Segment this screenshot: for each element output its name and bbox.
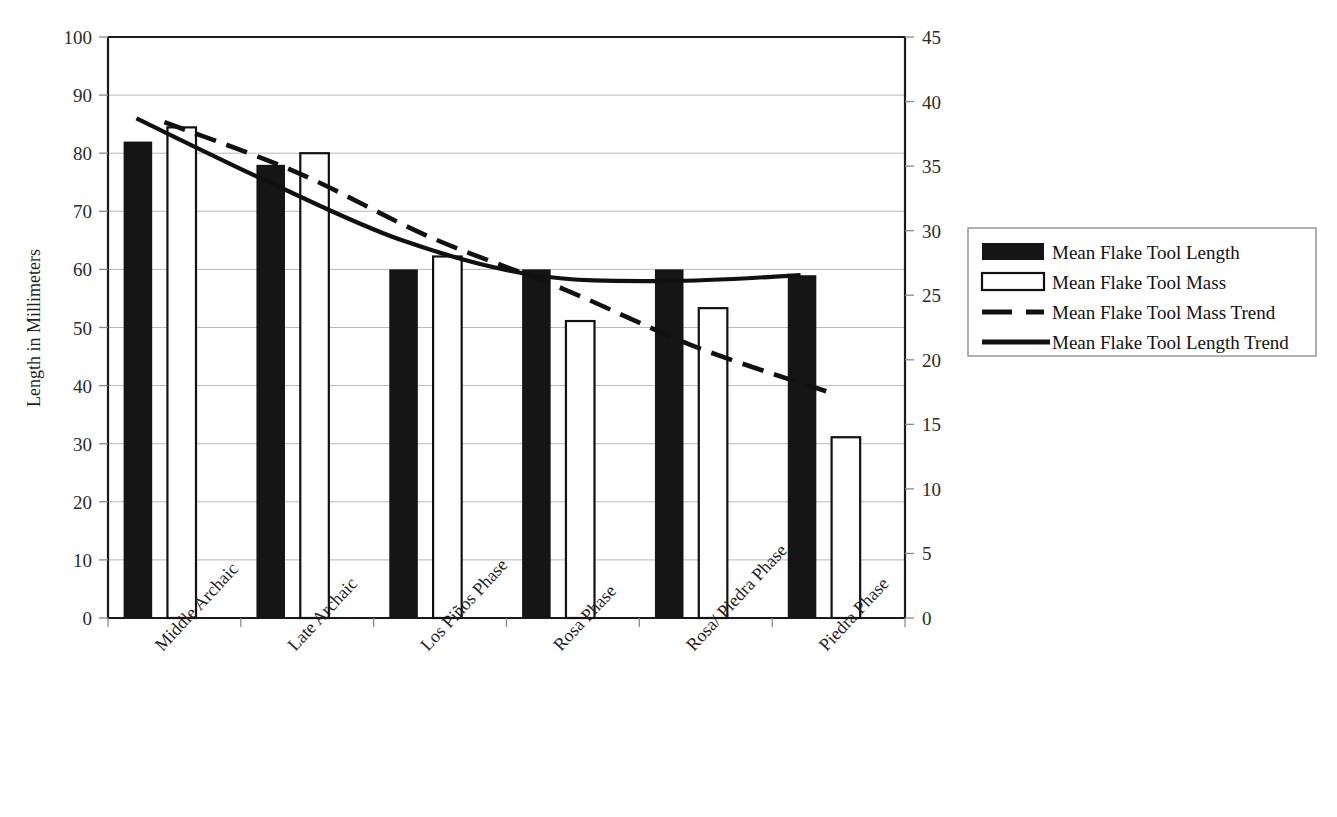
bar-mean-flake-tool-length xyxy=(124,142,153,618)
y-axis-title: Length in Millimeters xyxy=(24,249,44,407)
y-axis-tick-label: 10 xyxy=(73,550,92,571)
y-axis-tick-label: 80 xyxy=(73,143,92,164)
y2-axis-tick-label: 40 xyxy=(922,92,941,113)
y2-axis-tick-label: 20 xyxy=(922,350,941,371)
legend-marker-open-rect xyxy=(982,273,1044,290)
legend-marker-filled-rect xyxy=(982,243,1044,260)
y2-axis-tick-labels: 051015202530354045 xyxy=(922,27,941,629)
x-axis-ticks xyxy=(108,618,905,627)
trend-line-mean-flake-tool-length xyxy=(136,118,800,281)
y-axis-tick-label: 50 xyxy=(73,318,92,339)
y-axis-tick-label: 90 xyxy=(73,85,92,106)
y2-axis-tick-label: 15 xyxy=(922,414,941,435)
x-axis-category-label: Los Piños Phase xyxy=(416,555,511,655)
bar-mean-flake-tool-length xyxy=(655,269,684,618)
y-axis-ticks xyxy=(99,37,108,618)
y-axis-tick-label: 100 xyxy=(64,27,93,48)
y2-axis-tick-label: 35 xyxy=(922,156,941,177)
bar-mean-flake-tool-length xyxy=(256,165,285,618)
y-axis-tick-label: 20 xyxy=(73,492,92,513)
bar-mean-flake-tool-mass xyxy=(167,127,196,618)
y2-axis-tick-label: 45 xyxy=(922,27,941,48)
legend: Mean Flake Tool LengthMean Flake Tool Ma… xyxy=(968,228,1316,356)
y2-axis-tick-label: 0 xyxy=(922,608,932,629)
y2-axis-tick-label: 10 xyxy=(922,479,941,500)
y2-axis-tick-label: 30 xyxy=(922,221,941,242)
y-axis-tick-label: 40 xyxy=(73,376,92,397)
bar-mean-flake-tool-length xyxy=(788,275,817,618)
bar-mean-flake-tool-mass xyxy=(832,437,861,618)
chart-svg: 0102030405060708090100 05101520253035404… xyxy=(0,0,1337,817)
bar-mean-flake-tool-mass xyxy=(300,153,329,618)
y2-axis-tick-label: 5 xyxy=(922,543,932,564)
y2-axis-tick-label: 25 xyxy=(922,285,941,306)
bar-mean-flake-tool-mass xyxy=(566,321,595,618)
bar-mean-flake-tool-length xyxy=(389,269,418,618)
legend-label: Mean Flake Tool Mass Trend xyxy=(1052,302,1276,323)
y-axis-tick-label: 70 xyxy=(73,201,92,222)
y-axis-tick-label: 60 xyxy=(73,259,92,280)
y-axis-tick-label: 0 xyxy=(83,608,93,629)
y-axis-tick-label: 30 xyxy=(73,434,92,455)
bar-mean-flake-tool-length xyxy=(522,269,551,618)
y2-axis-ticks xyxy=(905,37,914,618)
chart-figure: 0102030405060708090100 05101520253035404… xyxy=(0,0,1337,817)
legend-label: Mean Flake Tool Mass xyxy=(1052,272,1226,293)
bar-mean-flake-tool-mass xyxy=(433,256,462,618)
y-axis-tick-labels: 0102030405060708090100 xyxy=(64,27,93,629)
legend-label: Mean Flake Tool Length xyxy=(1052,242,1240,263)
legend-label: Mean Flake Tool Length Trend xyxy=(1052,332,1289,353)
